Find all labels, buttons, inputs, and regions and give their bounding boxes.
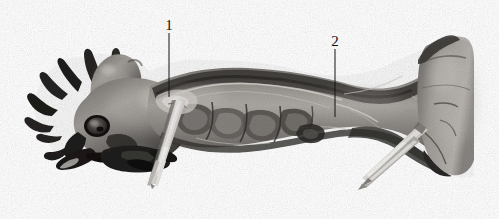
- callout-1-label: 1: [165, 18, 173, 33]
- specimen-photo-canvas: [0, 0, 499, 219]
- figure-panel: 1 2: [0, 0, 499, 219]
- callout-2-leader-line: [335, 49, 336, 117]
- callout-1-leader-line: [169, 33, 170, 97]
- specimen-photograph: [0, 0, 499, 219]
- callout-2-label: 2: [331, 34, 339, 49]
